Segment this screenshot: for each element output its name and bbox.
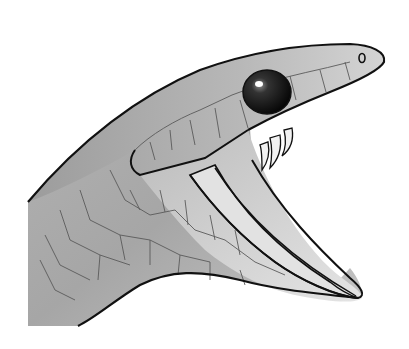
- snake-fangs: [260, 128, 293, 170]
- snake-eye: [243, 70, 291, 114]
- eye-highlight: [255, 81, 263, 87]
- snake-illustration: [0, 0, 409, 349]
